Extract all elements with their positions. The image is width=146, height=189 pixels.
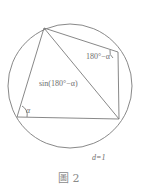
label-angle-180-minus-alpha: 180°−α (86, 52, 111, 61)
label-diameter: d=1 (92, 153, 105, 162)
cyclic-quadrilateral (17, 28, 119, 119)
angle-arc-top-right (110, 50, 113, 58)
label-diagonal-sine: sin(180°−α) (39, 79, 78, 88)
figure-canvas: 180°−α sin(180°−α) α d=1 圖 2 (0, 0, 146, 189)
diagonal-line (44, 28, 119, 119)
figure-caption: 圖 2 (58, 172, 80, 185)
label-angle-alpha: α (26, 106, 31, 115)
